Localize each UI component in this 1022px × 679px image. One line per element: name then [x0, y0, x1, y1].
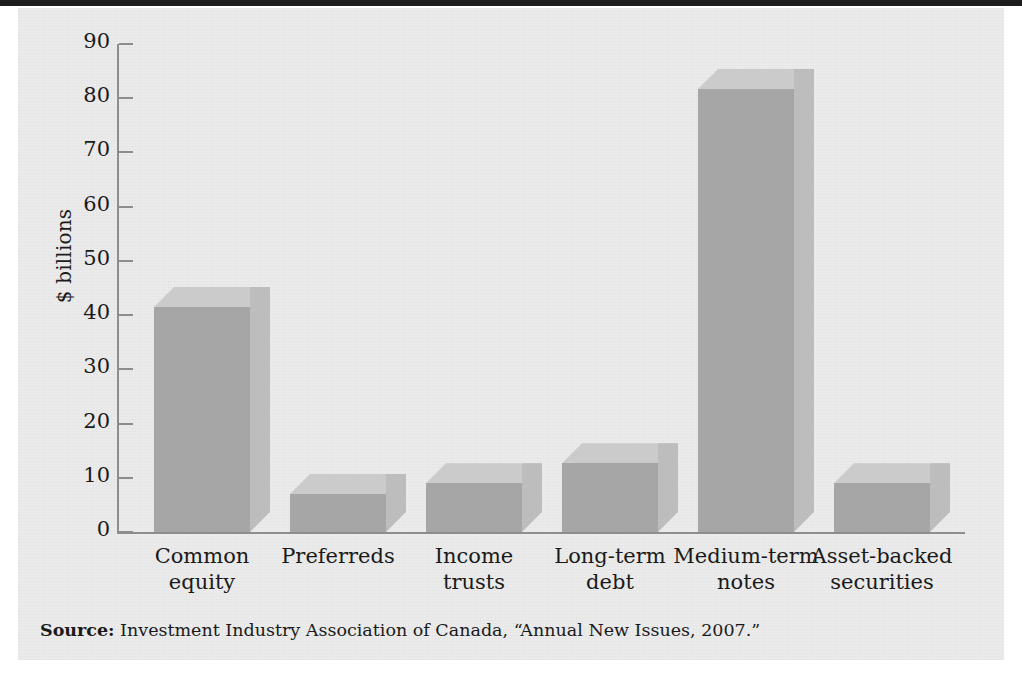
- y-axis-tick-label: 50: [58, 246, 110, 270]
- bar: [154, 287, 250, 532]
- figure-container: $ billions 0102030405060708090 Commonequ…: [0, 0, 1022, 679]
- y-axis-tick-mark: [119, 260, 133, 262]
- category-label-line: Asset-backed: [802, 544, 962, 570]
- bar-front-face: [834, 483, 930, 532]
- y-axis-tick-label: 80: [58, 83, 110, 107]
- bar: [834, 463, 930, 532]
- y-axis-tick-mark: [119, 43, 133, 45]
- y-axis-tick-mark: [119, 423, 133, 425]
- y-axis-tick-label: 10: [58, 463, 110, 487]
- y-axis-tick-label: 60: [58, 192, 110, 216]
- x-axis-line: [117, 532, 965, 534]
- category-label-line: equity: [122, 570, 282, 596]
- bar-side-face: [522, 463, 542, 532]
- y-axis-line: [117, 44, 119, 534]
- x-axis-category-label: Asset-backedsecurities: [802, 544, 962, 595]
- top-rule-divider: [0, 0, 1022, 6]
- bar-front-face: [426, 483, 522, 532]
- source-note: Source: Investment Industry Association …: [40, 620, 760, 640]
- bar-side-face: [930, 463, 950, 532]
- bar-chart-plot-area: $ billions 0102030405060708090 Commonequ…: [18, 8, 1004, 660]
- bar-front-face: [290, 494, 386, 532]
- category-label-line: securities: [802, 570, 962, 596]
- bar-side-face: [658, 443, 678, 532]
- bar-front-face: [154, 307, 250, 532]
- bar-side-face: [794, 69, 814, 532]
- bar-side-face: [386, 474, 406, 532]
- y-axis-tick-mark: [119, 368, 133, 370]
- y-axis-tick-label: 30: [58, 354, 110, 378]
- y-axis-tick-mark: [119, 97, 133, 99]
- bar: [426, 463, 522, 532]
- bar-side-face: [250, 287, 270, 532]
- y-axis-tick-label: 20: [58, 409, 110, 433]
- chart-panel: $ billions 0102030405060708090 Commonequ…: [18, 8, 1004, 660]
- bar-front-face: [562, 463, 658, 532]
- y-axis-tick-label: 40: [58, 300, 110, 324]
- y-axis-tick-mark: [119, 531, 133, 533]
- y-axis-tick-label: 90: [58, 29, 110, 53]
- y-axis-tick-mark: [119, 477, 133, 479]
- y-axis-tick-label: 0: [58, 517, 110, 541]
- bar: [290, 474, 386, 532]
- y-axis-tick-mark: [119, 151, 133, 153]
- bar-front-face: [698, 89, 794, 532]
- y-axis-tick-mark: [119, 314, 133, 316]
- y-axis-tick-label: 70: [58, 137, 110, 161]
- source-label: Source:: [40, 620, 115, 640]
- bar: [562, 443, 658, 532]
- y-axis-tick-mark: [119, 206, 133, 208]
- bar: [698, 69, 794, 532]
- source-text: Investment Industry Association of Canad…: [115, 620, 761, 640]
